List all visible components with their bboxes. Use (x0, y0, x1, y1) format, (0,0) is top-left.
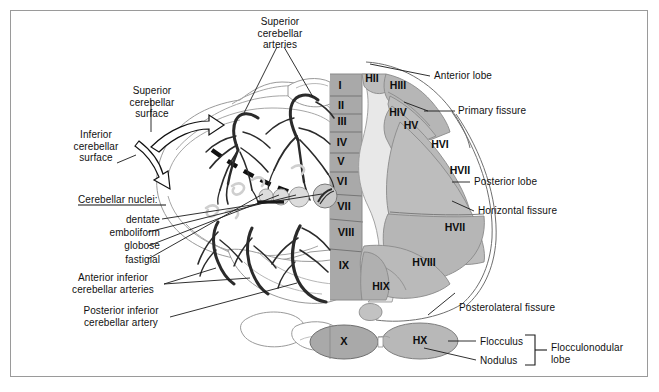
label-superior-cerebellar-arteries: Superior cerebellar arteries (228, 16, 332, 51)
vermis-lobule-viii-7: VIII (316, 227, 376, 238)
label-posterolateral-fissure: Posterolateral fissure (459, 302, 555, 314)
vermis-lobule-ii-1: II (311, 100, 371, 111)
label-flocculus: Flocculus (480, 336, 523, 348)
figure-canvas: Superior cerebellar arteries Superior ce… (0, 0, 659, 392)
label-superior-cerebellar-surface: Superior cerebellar surface (110, 85, 194, 120)
vermis-lobule-vi-5: VI (312, 176, 372, 187)
label-anterior-lobe: Anterior lobe (434, 70, 492, 82)
label-nodulus: Nodulus (480, 355, 517, 367)
hemisphere-lobule-hiv-2: HIV (368, 107, 428, 118)
label-horizontal-fissure: Horizontal fissure (478, 205, 557, 217)
label-nucleus-fastigial: fastigial (60, 254, 160, 266)
vermis-lobule-v-4: V (311, 156, 371, 167)
label-posterior-lobe: Posterior lobe (474, 176, 537, 188)
label-cerebellar-nuclei-heading: Cerebellar nuclei: (78, 194, 158, 206)
label-inferior-cerebellar-surface: Inferior cerebellar surface (56, 129, 136, 164)
vermis-lobule-x-9: X (314, 336, 374, 347)
label-nucleus-emboliform: emboliform (52, 227, 160, 239)
hemisphere-lobule-hiii-1: HIII (368, 80, 428, 91)
label-posterior-inferior-cerebellar-artery: Posterior inferior cerebellar artery (72, 305, 170, 328)
hemisphere-lobule-hv-3: HV (381, 120, 441, 131)
vermis-lobule-iii-2: III (312, 116, 372, 127)
hemisphere-lobule-hvii-5: HVII (430, 165, 490, 176)
hemisphere-lobule-hx-9: HX (390, 335, 450, 346)
hemisphere-lobule-hviii-7: HVIII (394, 257, 454, 268)
vermis-lobule-ix-8: IX (314, 260, 374, 271)
vermis-lobule-vii-6: VII (314, 201, 374, 212)
label-anterior-inferior-cerebellar-arteries: Anterior inferior cerebellar arteries (62, 272, 164, 295)
label-nucleus-dentate: dentate (60, 214, 160, 226)
label-nucleus-globose: globose (60, 240, 160, 252)
vermis-lobule-iv-3: IV (312, 137, 372, 148)
hemisphere-lobule-hix-8: HIX (351, 281, 411, 292)
flocculonodular-bracket (525, 335, 547, 365)
hemisphere-lobule-hvii-6: HVII (425, 222, 485, 233)
label-flocculonodular-lobe: Flocculonodular lobe (551, 342, 623, 365)
hemisphere-lobule-hvi-4: HVI (410, 139, 470, 150)
label-primary-fissure: Primary fissure (458, 105, 526, 117)
